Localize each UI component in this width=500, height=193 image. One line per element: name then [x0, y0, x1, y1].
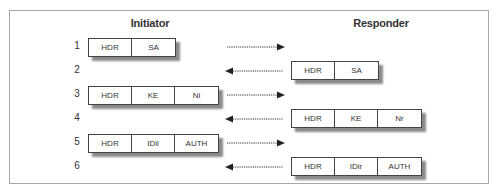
field-hdr: HDR [89, 135, 132, 152]
field-ke: KE [132, 87, 175, 104]
arrow-right-icon [227, 139, 285, 147]
field-nr: Nr [378, 110, 421, 127]
field-hdr: HDR [89, 39, 132, 56]
row-number: 3 [72, 88, 82, 99]
row-number: 5 [72, 136, 82, 147]
field-sa: SA [335, 62, 378, 79]
arrow-right-icon [227, 43, 285, 51]
initiator-title: Initiator [131, 17, 170, 29]
field-ke: KE [335, 110, 378, 127]
field-auth: AUTH [175, 135, 218, 152]
arrow-left-icon [225, 163, 283, 171]
row-number: 4 [72, 112, 82, 123]
field-hdr: HDR [292, 62, 335, 79]
initiator-message-3: HDR KE Ni [88, 86, 219, 105]
row-number: 2 [72, 64, 82, 75]
responder-title: Responder [353, 17, 409, 29]
field-ni: Ni [175, 87, 218, 104]
initiator-message-5: HDR IDii AUTH [88, 134, 219, 153]
field-auth: AUTH [378, 158, 421, 175]
arrow-left-icon [225, 115, 283, 123]
responder-message-4: HDR KE Nr [291, 109, 422, 128]
responder-message-2: HDR SA [291, 61, 379, 80]
responder-message-6: HDR IDir AUTH [291, 157, 422, 176]
field-sa: SA [132, 39, 175, 56]
field-idii: IDii [132, 135, 175, 152]
field-hdr: HDR [89, 87, 132, 104]
initiator-message-1: HDR SA [88, 38, 176, 57]
field-idir: IDir [335, 158, 378, 175]
field-hdr: HDR [292, 110, 335, 127]
arrow-right-icon [227, 91, 285, 99]
arrow-left-icon [225, 67, 283, 75]
row-number: 6 [72, 160, 82, 171]
row-number: 1 [72, 40, 82, 51]
field-hdr: HDR [292, 158, 335, 175]
